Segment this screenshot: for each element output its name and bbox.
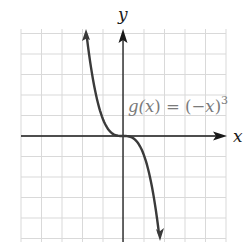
curve-bottom-arrow-icon bbox=[156, 228, 164, 241]
y-axis-label: y bbox=[117, 4, 128, 24]
function-label: g(x) = (−x)3 bbox=[128, 94, 228, 116]
x-axis-label: x bbox=[233, 126, 243, 146]
function-graph: y x g(x) = (−x)3 bbox=[0, 0, 246, 244]
